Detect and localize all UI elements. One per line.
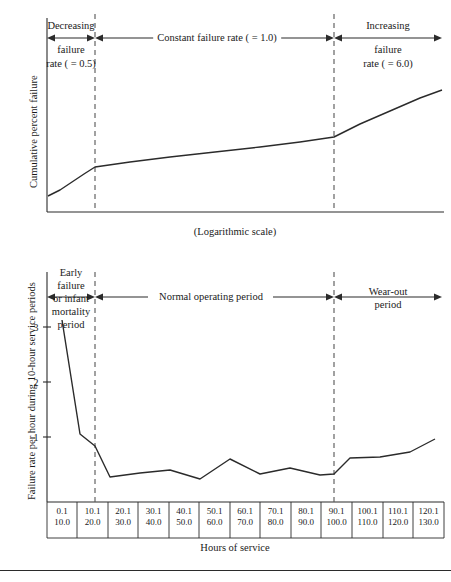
- top-band-label-constant: Constant failure rate ( = 1.0): [153, 32, 281, 44]
- x-interval-to: 20.0: [85, 517, 101, 528]
- top-chart-y-axis-label: Cumulative percent failure: [28, 75, 39, 188]
- x-interval-from: 90.1: [326, 506, 346, 517]
- bottom-band-label-early-line1: Early: [36, 266, 106, 279]
- x-interval-cell: 10.1 20.0: [85, 506, 101, 528]
- x-interval-to: 30.0: [115, 517, 131, 528]
- bottom-band-label-early-line2: failure: [36, 279, 106, 292]
- x-interval-from: 80.1: [298, 506, 314, 517]
- x-interval-from: 50.1: [207, 506, 223, 517]
- top-band-label-increasing: Increasing failure rate ( = 6.0): [345, 20, 431, 70]
- top-band-label-decreasing-line2: failure: [34, 44, 108, 56]
- bottom-chart-y-axis-label: Failure rate per hour during 10-hour ser…: [26, 282, 37, 500]
- x-interval-from: 40.1: [176, 506, 192, 517]
- x-interval-from: 60.1: [237, 506, 253, 517]
- x-interval-cell: 40.1 50.0: [176, 506, 192, 528]
- x-interval-cell: 90.1 100.0: [326, 506, 346, 528]
- bottom-band-label-wearout-line2: period: [349, 298, 427, 311]
- x-interval-to: 40.0: [146, 517, 162, 528]
- x-axis-title: Hours of service: [200, 542, 269, 553]
- x-interval-cell: 30.1 40.0: [146, 506, 162, 528]
- bottom-chart-y-tick-3: 3: [34, 322, 39, 333]
- x-interval-from: 0.1: [54, 506, 70, 517]
- x-interval-to: 100.0: [326, 517, 346, 528]
- bottom-chart-y-tick-1: 1: [34, 432, 39, 443]
- top-band-label-decreasing-line3: rate ( = 0.5): [34, 58, 108, 70]
- bottom-chart-y-tick-2: 2: [34, 377, 39, 388]
- top-band-label-increasing-line2: failure: [345, 44, 431, 56]
- x-interval-from: 120.1: [418, 506, 438, 517]
- bottom-band-label-early-line5: period: [36, 318, 106, 331]
- x-interval-from: 110.1: [388, 506, 408, 517]
- x-interval-cell: 110.1 120.0: [388, 506, 408, 528]
- bottom-band-label-wearout-line1: Wear-out: [349, 285, 427, 298]
- x-interval-from: 100.1: [357, 506, 377, 517]
- x-interval-cell: 60.1 70.0: [237, 506, 253, 528]
- x-interval-cell: 120.1 130.0: [418, 506, 438, 528]
- x-interval-to: 50.0: [176, 517, 192, 528]
- x-interval-to: 120.0: [388, 517, 408, 528]
- x-interval-cell: 0.1 10.0: [54, 506, 70, 528]
- figure-bathtub-curve: Decreasing failure rate ( = 0.5) Constan…: [0, 0, 451, 582]
- top-band-label-increasing-line3: rate ( = 6.0): [345, 58, 431, 70]
- bottom-band-label-early: Early failure or infant mortality period: [36, 266, 106, 331]
- top-band-label-increasing-line1: Increasing: [345, 20, 431, 32]
- x-interval-to: 90.0: [298, 517, 314, 528]
- x-interval-to: 60.0: [207, 517, 223, 528]
- top-band-label-constant-line1: Constant failure rate ( = 1.0): [157, 32, 277, 44]
- x-interval-cell: 100.1 110.0: [357, 506, 377, 528]
- bottom-chart-data-line: [62, 320, 435, 479]
- x-interval-to: 70.0: [237, 517, 253, 528]
- x-interval-from: 20.1: [115, 506, 131, 517]
- x-interval-to: 110.0: [357, 517, 377, 528]
- top-band-label-decreasing: Decreasing failure rate ( = 0.5): [34, 20, 108, 70]
- x-interval-from: 70.1: [268, 506, 284, 517]
- x-interval-from: 30.1: [146, 506, 162, 517]
- x-interval-from: 10.1: [85, 506, 101, 517]
- log-scale-note: (Logarithmic scale): [194, 226, 277, 237]
- bottom-band-label-wearout: Wear-out period: [349, 285, 427, 311]
- top-chart-data-line: [48, 90, 442, 196]
- x-interval-cell: 50.1 60.0: [207, 506, 223, 528]
- bottom-band-label-normal: Normal operating period: [154, 291, 268, 303]
- bottom-band-label-early-line4: mortality: [36, 305, 106, 318]
- caption-divider: [0, 570, 451, 571]
- bottom-band-label-early-line3: or infant: [36, 292, 106, 305]
- x-interval-cell: 80.1 90.0: [298, 506, 314, 528]
- x-interval-to: 10.0: [54, 517, 70, 528]
- bottom-band-label-normal-line1: Normal operating period: [159, 291, 263, 303]
- top-band-label-decreasing-line1: Decreasing: [34, 20, 108, 32]
- x-interval-to: 130.0: [418, 517, 438, 528]
- x-interval-cell: 70.1 80.0: [268, 506, 284, 528]
- x-interval-cell: 20.1 30.0: [115, 506, 131, 528]
- x-interval-to: 80.0: [268, 517, 284, 528]
